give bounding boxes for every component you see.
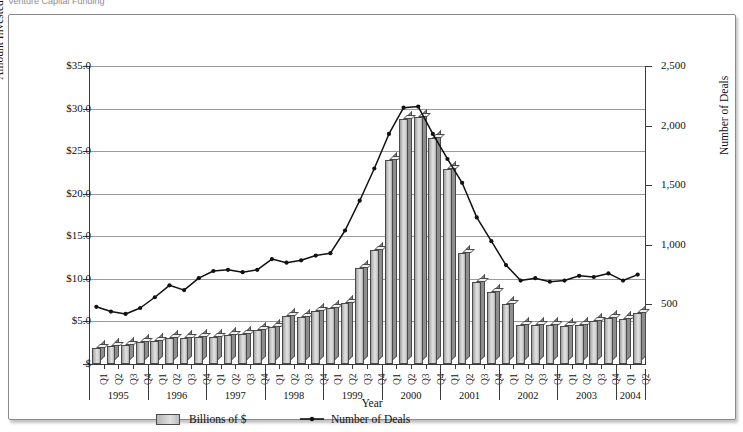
line-marker	[621, 278, 625, 282]
line-marker	[123, 312, 127, 316]
quarter-tickmark	[352, 365, 353, 369]
right-axis-tick-label: 1,500	[661, 179, 686, 190]
line-marker	[343, 228, 347, 232]
right-axis-title: Number of Deals	[718, 0, 730, 155]
quarter-label: Q4	[495, 373, 505, 385]
quarter-label: Q2	[408, 373, 418, 385]
quarter-label: Q2	[525, 373, 535, 385]
line-marker	[548, 280, 552, 284]
quarter-label: Q3	[188, 373, 198, 385]
legend-label-line: Number of Deals	[331, 413, 410, 425]
quarter-tickmark	[455, 365, 456, 369]
line-marker	[387, 132, 391, 136]
right-axis-tick-label: 500	[661, 298, 678, 309]
right-axis-tick-label: 2,000	[661, 120, 686, 131]
line-marker	[197, 276, 201, 280]
quarter-label: Q1	[217, 373, 227, 385]
quarter-label: Q3	[247, 373, 257, 385]
line-marker	[636, 273, 640, 277]
line-marker	[489, 239, 493, 243]
quarter-label: Q2	[583, 373, 593, 385]
line-marker	[182, 288, 186, 292]
figure-caption: Venture Capital Funding	[8, 0, 408, 8]
bar-swatch-icon	[156, 414, 180, 425]
quarter-tickmark	[411, 365, 412, 369]
quarter-label: Q2	[642, 373, 652, 385]
quarter-label: Q1	[393, 373, 403, 385]
quarter-label: Q1	[451, 373, 461, 385]
quarter-label: Q3	[305, 373, 315, 385]
right-axis-tickmark	[646, 304, 652, 305]
left-axis-tick-label: $15.0	[66, 230, 91, 241]
line-marker	[475, 215, 479, 219]
quarter-label: Q2	[466, 373, 476, 385]
quarter-label: Q2	[349, 373, 359, 385]
left-axis-tick-label: $10.0	[66, 273, 91, 284]
quarter-label: Q3	[481, 373, 491, 385]
line-series	[89, 66, 645, 364]
x-axis-title: Year	[9, 397, 735, 409]
quarter-tickmark	[630, 365, 631, 369]
quarter-label: Q3	[364, 373, 374, 385]
chart-legend: Billions of $ Number of Deals	[9, 411, 735, 431]
line-marker	[284, 261, 288, 265]
line-marker	[519, 278, 523, 282]
line-marker	[401, 106, 405, 110]
quarter-label: Q4	[378, 373, 388, 385]
quarter-label: Q4	[261, 373, 271, 385]
quarter-tickmark	[279, 365, 280, 369]
quarter-tickmark	[308, 365, 309, 369]
line-marker	[94, 305, 98, 309]
line-marker	[431, 132, 435, 136]
line-marker	[109, 309, 113, 313]
quarter-label: Q2	[115, 373, 125, 385]
line-marker	[358, 199, 362, 203]
quarter-tickmark	[601, 365, 602, 369]
line-marker	[255, 268, 259, 272]
quarter-label: Q1	[276, 373, 286, 385]
quarter-label: Q1	[334, 373, 344, 385]
left-axis-tick-label: $35.0	[66, 60, 91, 71]
quarter-tickmark	[250, 365, 251, 369]
chart-root: Venture Capital Funding $35.0$30.0$25.0$…	[0, 0, 743, 432]
quarter-tickmark	[528, 365, 529, 369]
quarter-label: Q3	[539, 373, 549, 385]
line-marker	[138, 306, 142, 310]
quarter-tickmark	[513, 365, 514, 369]
quarter-label: Q4	[144, 373, 154, 385]
quarter-label: Q1	[159, 373, 169, 385]
line-marker	[533, 276, 537, 280]
line-marker	[445, 157, 449, 161]
line-marker	[577, 274, 581, 278]
right-axis-tick-label: 1,000	[661, 239, 686, 250]
line-marker	[270, 257, 274, 261]
line-marker	[416, 104, 420, 108]
quarter-tickmark	[426, 365, 427, 369]
line-marker	[592, 275, 596, 279]
quarter-tickmark	[162, 365, 163, 369]
quarter-label: Q4	[612, 373, 622, 385]
quarter-label: Q3	[130, 373, 140, 385]
chart-panel: $35.0$30.0$25.0$20.0$15.0$10.0$5.0$ 2,50…	[8, 14, 736, 420]
right-axis-tickmark	[646, 66, 652, 67]
quarter-tickmark	[396, 365, 397, 369]
quarter-tickmark	[484, 365, 485, 369]
legend-label-bars: Billions of $	[189, 413, 247, 425]
quarter-label: Q2	[232, 373, 242, 385]
right-axis-tickmark	[646, 185, 652, 186]
quarter-label: Q1	[627, 373, 637, 385]
quarter-label: Q1	[569, 373, 579, 385]
quarter-tickmark	[572, 365, 573, 369]
right-axis-tickmark	[646, 245, 652, 246]
line-marker	[504, 263, 508, 267]
right-axis-tickmark	[646, 126, 652, 127]
quarter-tickmark	[221, 365, 222, 369]
quarter-label: Q1	[510, 373, 520, 385]
quarter-tickmark	[191, 365, 192, 369]
line-marker	[153, 295, 157, 299]
line-marker	[241, 270, 245, 274]
line-marker	[211, 269, 215, 273]
quarter-label: Q2	[173, 373, 183, 385]
line-marker	[167, 283, 171, 287]
quarter-tickmark	[294, 365, 295, 369]
